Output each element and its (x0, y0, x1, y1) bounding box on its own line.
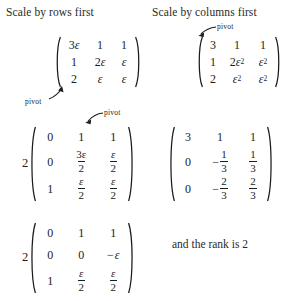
matrix-cell: 1 3 (239, 148, 267, 175)
matrix-left-1: 3ε 1 1 1 2ε ε 2 ε ε (54, 36, 142, 88)
left-paren-icon (168, 126, 175, 202)
matrix-cell: −ε (98, 243, 128, 267)
pivot-label-2: pivot (104, 108, 120, 117)
fraction: 3ε 2 (75, 149, 87, 174)
matrix-cell: 1 (61, 53, 87, 70)
epsilon-symbol: ε (75, 39, 80, 51)
matrix-right-1: 3 1 1 1 2ε2 ε2 2 ε2 ε2 (196, 36, 282, 88)
matrix-cell: 1 (36, 267, 64, 294)
matrix-cell: − 1 3 (201, 148, 239, 175)
matrix-cell: ε (113, 53, 135, 70)
matrix-cell: 2ε (87, 53, 113, 70)
matrix-cell: 1 (203, 53, 223, 70)
matrix-cell: 1 (239, 126, 267, 148)
matrix-cell: 0 (36, 126, 64, 148)
matrix-cell: ε (87, 70, 113, 88)
left-paren-icon (29, 126, 36, 202)
matrix-cell: ε 2 (64, 175, 98, 202)
matrix-cell: ε 2 (64, 267, 98, 294)
matrix-cell: 0 (36, 148, 64, 175)
right-paren-icon (267, 126, 274, 202)
right-paren-icon (128, 126, 135, 202)
minus-sign: − (107, 249, 114, 261)
matrix-cell: 1 (98, 126, 128, 148)
epsilon-symbol: ε (101, 56, 106, 68)
matrix-cell: 1 (87, 36, 113, 53)
matrix-cell: 0 (64, 243, 98, 267)
matrix-cell: 1 (201, 126, 239, 148)
fraction: 1 3 (249, 149, 257, 174)
left-paren-icon (29, 222, 36, 294)
matrix-cell: 1 (64, 222, 98, 243)
matrix-cell: 2ε2 (223, 53, 251, 70)
epsilon-symbol: ε (115, 249, 120, 261)
minus-sign: − (212, 156, 219, 168)
fraction: ε 2 (110, 149, 118, 174)
matrix-left-2: 2 0 1 1 0 3ε 2 ε 2 (22, 126, 135, 202)
matrix-cell: 2 3 (239, 175, 267, 202)
fraction: ε 2 (78, 268, 86, 293)
matrix-cell: 2 (203, 70, 223, 88)
matrix-coefficient: 2 (22, 250, 28, 266)
matrix-cell: 1 (251, 36, 275, 53)
matrix-cell: ε2 (223, 70, 251, 88)
matrix-cell: ε (113, 70, 135, 88)
matrix-cell: 1 (36, 175, 64, 202)
fraction: 2 3 (249, 176, 257, 201)
matrix-cell: ε 2 (98, 175, 128, 202)
right-paren-icon (275, 36, 282, 88)
right-paren-icon (128, 222, 135, 294)
matrix-right-2: 3 1 1 0 − 1 3 1 3 (168, 126, 274, 202)
matrix-cell: 0 (175, 175, 201, 202)
matrix-cell: 1 (113, 36, 135, 53)
matrix-cell: 3ε 2 (64, 148, 98, 175)
matrix-cell: 1 (64, 126, 98, 148)
fraction: 1 3 (220, 149, 228, 174)
matrix-cell: 3 (203, 36, 223, 53)
matrix-cell: − 2 3 (201, 175, 239, 202)
fraction: 2 3 (220, 176, 228, 201)
matrix-cell: 0 (36, 243, 64, 267)
matrix-coefficient: 2 (22, 156, 28, 172)
fraction: ε 2 (78, 176, 86, 201)
matrix-left-3: 2 0 1 1 0 0 −ε 1 ε 2 (22, 222, 135, 294)
document-page: Scale by rows first Scale by columns fir… (0, 0, 285, 301)
matrix-cell: 0 (175, 148, 201, 175)
heading-scale-by-columns: Scale by columns first (152, 6, 257, 18)
heading-scale-by-rows: Scale by rows first (6, 6, 94, 18)
fraction: ε 2 (110, 268, 118, 293)
pivot-label-1: pivot (25, 97, 41, 106)
matrix-cell: ε2 (251, 70, 275, 88)
fraction: ε 2 (110, 176, 118, 201)
matrix-cell: 3 (175, 126, 201, 148)
matrix-cell: 1 (98, 222, 128, 243)
left-paren-icon (196, 36, 203, 88)
pivot-arrow-3 (196, 24, 218, 38)
matrix-cell: 1 (223, 36, 251, 53)
rank-statement: and the rank is 2 (172, 238, 248, 250)
minus-sign: − (212, 183, 219, 195)
matrix-cell: ε2 (251, 53, 275, 70)
matrix-cell: 3ε (61, 36, 87, 53)
pivot-arrow-1 (46, 85, 66, 101)
matrix-cell: ε 2 (98, 267, 128, 294)
pivot-label-3: pivot (217, 22, 233, 31)
matrix-cell: ε 2 (98, 148, 128, 175)
pivot-arrow-2 (82, 110, 105, 125)
left-paren-icon (54, 36, 61, 88)
right-paren-icon (135, 36, 142, 88)
matrix-cell: 0 (36, 222, 64, 243)
